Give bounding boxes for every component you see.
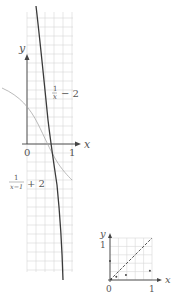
- curve-label-upper: 1 x − 2: [52, 85, 79, 101]
- y-axis-arrow-icon: [25, 54, 30, 60]
- inset-y-tick-label: 1: [100, 240, 106, 250]
- inset-x-tick-label: 1: [149, 284, 155, 294]
- diagram-canvas: y x 0 1 1 x − 2 1 x−1 + 2 y 1 x 0 1: [0, 0, 182, 294]
- x-axis-arrow-icon: [75, 142, 81, 147]
- inset-x-arrow-icon: [157, 278, 162, 282]
- svg-text:x−1: x−1: [10, 183, 23, 191]
- inset-origin-label: 0: [106, 284, 112, 294]
- main-grid: [27, 12, 73, 272]
- svg-text:1: 1: [14, 174, 18, 182]
- inset-y-label: y: [99, 228, 106, 239]
- light-curve: [2, 88, 72, 180]
- svg-text:+ 2: + 2: [27, 178, 45, 189]
- main-x-label: x: [84, 138, 91, 151]
- main-x-tick-label: 1: [69, 147, 75, 158]
- svg-text:x: x: [53, 93, 57, 101]
- svg-text:1: 1: [53, 85, 57, 93]
- svg-text:− 2: − 2: [61, 88, 79, 99]
- inset-y-arrow-icon: [108, 233, 112, 238]
- main-y-label: y: [18, 42, 26, 55]
- main-origin-label: 0: [24, 147, 30, 158]
- dark-curve: [36, 6, 63, 280]
- inset-diagonal: [110, 238, 152, 280]
- inset-x-label: x: [165, 274, 171, 285]
